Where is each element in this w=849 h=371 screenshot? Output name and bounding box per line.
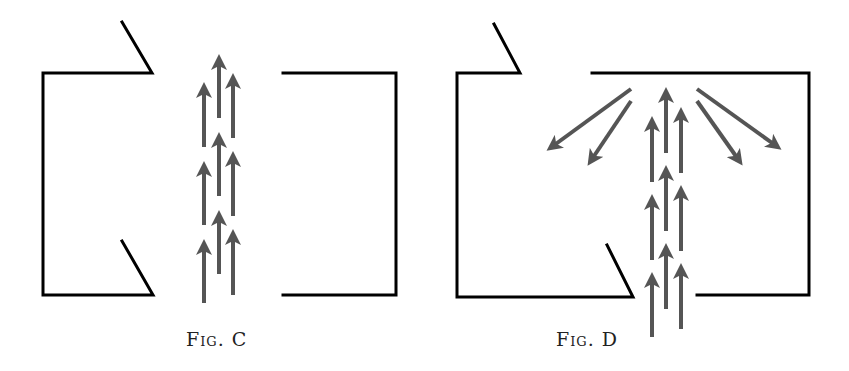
airflow-diagram [0,0,849,371]
fig-d-left-wall [457,24,633,297]
fig-d-airflow-arrows [652,95,681,337]
arrow-down-left-icon [592,101,631,159]
fig-c-airflow-arrows [204,62,233,303]
figure-c-caption: Fig. C [186,328,247,350]
figure-d-caption: Fig. D [556,328,618,350]
figure-d [457,24,809,337]
figure-c [43,22,396,303]
fig-c-right-wall [283,73,396,295]
arrow-down-right-icon [697,101,738,159]
fig-c-left-wall [43,22,153,295]
